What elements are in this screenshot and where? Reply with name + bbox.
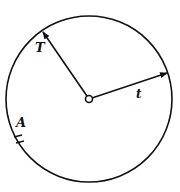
label-T: T — [35, 40, 46, 55]
vector-t-arrow — [89, 73, 167, 99]
label-A: A — [14, 115, 26, 130]
vector-T-arrow — [43, 32, 89, 99]
label-t: t — [136, 87, 142, 101]
diagram-canvas: T t A — [0, 0, 180, 192]
center-point — [86, 96, 93, 103]
